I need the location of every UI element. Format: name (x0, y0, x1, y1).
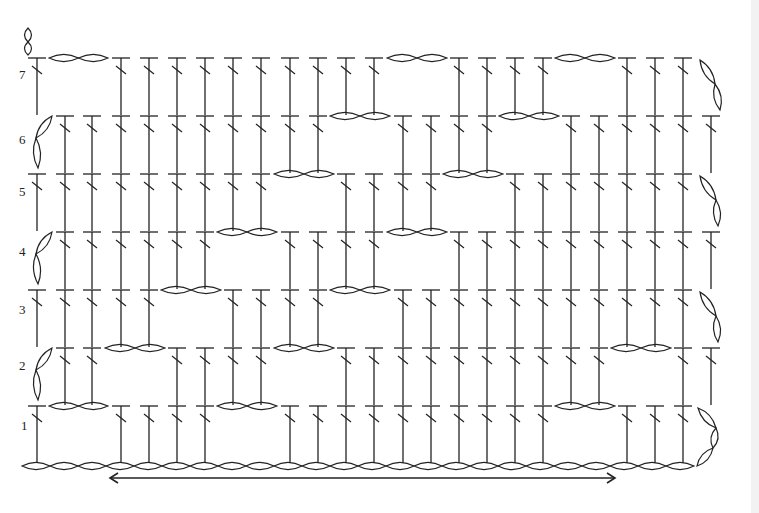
double-crochet-stitch-icon (618, 232, 636, 289)
double-crochet-stitch-icon (337, 58, 355, 115)
double-crochet-stitch-icon (112, 406, 130, 463)
chain-stitch-icon (106, 462, 134, 469)
double-crochet-stitch-icon (506, 406, 524, 463)
double-crochet-stitch-icon (365, 58, 383, 115)
double-crochet-stitch-icon (252, 58, 270, 115)
chain-stitch-icon (246, 462, 274, 469)
double-crochet-stitch-icon (112, 116, 130, 173)
double-crochet-stitch-icon (56, 174, 74, 231)
double-crochet-stitch-icon (394, 174, 412, 231)
chain-stitch-icon (330, 286, 360, 293)
chain-stitch-icon (442, 462, 470, 469)
double-crochet-stitch-icon (590, 290, 608, 347)
double-crochet-stitch-icon (646, 58, 664, 115)
double-crochet-stitch-icon (365, 348, 383, 405)
double-crochet-stitch-icon (478, 348, 496, 405)
chain-stitch-icon (638, 462, 666, 469)
chain-stitch-icon (417, 228, 447, 235)
double-crochet-stitch-icon (365, 406, 383, 463)
chain-stitch-icon (304, 344, 334, 351)
double-crochet-stitch-icon (224, 58, 242, 115)
chain-stitch-icon (330, 462, 358, 469)
double-crochet-stitch-icon (590, 232, 608, 289)
chain-stitch-icon (387, 228, 417, 235)
double-crochet-stitch-icon (281, 406, 299, 463)
double-crochet-stitch-icon (394, 116, 412, 173)
chain-stitch-icon (191, 286, 221, 293)
chain-stitch-icon (134, 462, 162, 469)
double-crochet-stitch-icon (252, 116, 270, 173)
double-crochet-stitch-icon (365, 174, 383, 231)
chain-stitch-icon (387, 54, 417, 61)
chain-stitch-icon (274, 170, 304, 177)
double-crochet-stitch-icon (28, 174, 46, 231)
double-crochet-stitch-icon (422, 174, 440, 231)
chain-stitch-icon (217, 228, 247, 235)
double-crochet-stitch-icon (309, 406, 327, 463)
double-crochet-stitch-icon (28, 58, 46, 115)
double-crochet-stitch-icon (281, 290, 299, 347)
chain-stitch-icon (36, 116, 52, 138)
double-crochet-stitch-icon (281, 232, 299, 289)
chain-stitch-icon (33, 138, 40, 168)
direction-arrow-icon (110, 473, 615, 483)
double-crochet-stitch-icon (478, 58, 496, 115)
double-crochet-stitch-icon (590, 348, 608, 405)
double-crochet-stitch-icon (196, 174, 214, 231)
crochet-chart (0, 0, 759, 513)
double-crochet-stitch-icon (83, 232, 101, 289)
double-crochet-stitch-icon (618, 406, 636, 463)
double-crochet-stitch-icon (394, 290, 412, 347)
double-crochet-stitch-icon (252, 290, 270, 347)
chain-stitch-icon (36, 232, 52, 254)
chain-stitch-icon (473, 170, 503, 177)
double-crochet-stitch-icon (674, 406, 692, 463)
chain-stitch-icon (247, 228, 277, 235)
double-crochet-stitch-icon (562, 348, 580, 405)
double-crochet-stitch-icon (196, 406, 214, 463)
chain-stitch-icon (161, 286, 191, 293)
double-crochet-stitch-icon (702, 232, 720, 289)
double-crochet-stitch-icon (618, 290, 636, 347)
double-crochet-stitch-icon (309, 116, 327, 173)
stitch-layer (28, 58, 720, 463)
double-crochet-stitch-icon (590, 116, 608, 173)
chain-layer (22, 28, 721, 470)
double-crochet-stitch-icon (450, 116, 468, 173)
chain-stitch-icon (700, 60, 715, 84)
double-crochet-stitch-icon (646, 290, 664, 347)
chain-stitch-icon (33, 370, 40, 400)
double-crochet-stitch-icon (224, 116, 242, 173)
double-crochet-stitch-icon (506, 174, 524, 231)
chain-stitch-icon (582, 462, 610, 469)
double-crochet-stitch-icon (478, 116, 496, 173)
row-number-4: 4 (19, 244, 26, 260)
chain-stitch-icon (360, 286, 390, 293)
double-crochet-stitch-icon (506, 232, 524, 289)
double-crochet-stitch-icon (702, 116, 720, 173)
double-crochet-stitch-icon (646, 116, 664, 173)
chain-stitch-icon (302, 462, 330, 469)
chain-stitch-icon (700, 176, 716, 200)
chain-stitch-icon (330, 112, 360, 119)
double-crochet-stitch-icon (140, 174, 158, 231)
double-crochet-stitch-icon (168, 58, 186, 115)
chain-stitch-icon (470, 462, 498, 469)
double-crochet-stitch-icon (309, 58, 327, 115)
double-crochet-stitch-icon (28, 406, 46, 463)
chain-stitch-icon (498, 462, 526, 469)
double-crochet-stitch-icon (478, 290, 496, 347)
double-crochet-stitch-icon (309, 232, 327, 289)
double-crochet-stitch-icon (450, 406, 468, 463)
double-crochet-stitch-icon (83, 290, 101, 347)
chain-stitch-icon (50, 462, 78, 469)
chain-stitch-icon (443, 170, 473, 177)
double-crochet-stitch-icon (168, 348, 186, 405)
chain-stitch-icon (700, 292, 716, 316)
double-crochet-stitch-icon (534, 406, 552, 463)
chain-stitch-icon (666, 462, 694, 469)
double-crochet-stitch-icon (112, 232, 130, 289)
chain-stitch-icon (414, 462, 442, 469)
chain-stitch-icon (190, 462, 218, 469)
chain-stitch-icon (135, 344, 165, 351)
